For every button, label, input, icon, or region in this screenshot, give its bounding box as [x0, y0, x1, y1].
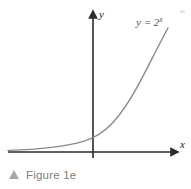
x-axis-label: x — [179, 138, 185, 150]
curve-equation-base: y = 2 — [135, 16, 160, 28]
figure-caption: Figure 1e — [26, 169, 76, 181]
figure-container: x y y = 2x Figure 1e — [0, 0, 191, 189]
exponential-curve — [8, 28, 168, 150]
triangle-up-icon — [9, 170, 19, 179]
curve-equation-exponent: x — [158, 15, 163, 24]
caption-bar: Figure 1e — [0, 160, 191, 189]
plot-area: x y y = 2x — [0, 0, 191, 160]
curve-equation-label: y = 2x — [135, 15, 163, 28]
plot-svg: x y y = 2x — [0, 0, 191, 160]
corner-artifact — [180, 10, 185, 13]
y-axis-label: y — [98, 8, 104, 20]
